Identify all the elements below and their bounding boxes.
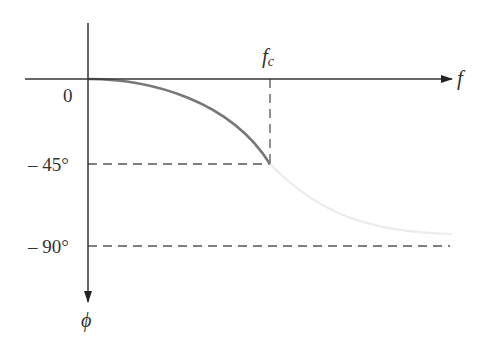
- phase-curve-faint: [270, 164, 452, 234]
- phase-axis-label: ϕ: [81, 309, 91, 332]
- cutoff-frequency-label: fc: [262, 44, 275, 69]
- zero-tick-label: 0: [63, 85, 73, 106]
- frequency-axis-label: f: [457, 66, 466, 90]
- phase-diagram: 0 – 45° – 90° f ϕ fc: [0, 0, 490, 355]
- cutoff-subscript: c: [268, 54, 275, 69]
- phase-curve: [88, 79, 270, 164]
- minus90-tick-label: – 90°: [27, 236, 69, 257]
- minus45-tick-label: – 45°: [27, 154, 69, 175]
